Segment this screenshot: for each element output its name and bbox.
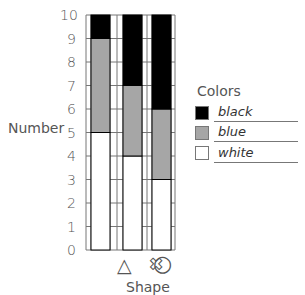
bar-segment-cross-blue	[123, 86, 142, 157]
legend-underline	[214, 121, 298, 122]
legend-label-white: white	[218, 145, 254, 160]
circle-symbol: ○	[153, 251, 172, 276]
legend-swatch-blue	[195, 126, 209, 140]
triangle-symbol: △	[117, 254, 132, 276]
legend-title: Colors	[197, 83, 241, 99]
bar-segment-cross-black	[123, 15, 142, 86]
legend-label-blue: blue	[218, 124, 246, 139]
bar-segment-circle-blue	[152, 109, 171, 180]
bar-segment-triangle-black	[91, 15, 110, 39]
bar-segment-circle-black	[152, 15, 171, 109]
legend-underline	[214, 141, 298, 142]
legend-swatch-black	[195, 106, 209, 120]
bar-segment-triangle-blue	[91, 39, 110, 133]
bar-segment-cross-white	[123, 156, 142, 250]
legend-underline	[214, 162, 298, 163]
bar-segment-triangle-white	[91, 133, 110, 251]
bar-segment-circle-white	[152, 180, 171, 251]
x-axis-label: Shape	[126, 279, 170, 295]
legend-label-black: black	[218, 104, 253, 119]
legend-swatch-white	[195, 146, 209, 160]
